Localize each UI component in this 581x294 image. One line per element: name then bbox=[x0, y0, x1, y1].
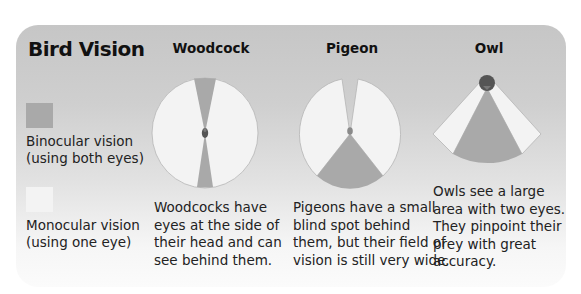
binocular-label-line2: (using both eyes) bbox=[26, 150, 144, 167]
woodcock-vision-diagram bbox=[150, 75, 262, 191]
binocular-swatch bbox=[26, 103, 53, 128]
pigeon-vision-diagram bbox=[293, 76, 407, 194]
binocular-label-line1: Binocular vision bbox=[26, 133, 144, 150]
binocular-label: Binocular vision (using both eyes) bbox=[26, 133, 144, 167]
woodcock-description: Woodcocks have eyes at the side of their… bbox=[154, 199, 282, 269]
diagram-title: Bird Vision bbox=[28, 37, 144, 61]
monocular-label-line1: Monocular vision bbox=[26, 217, 140, 234]
monocular-label-line2: (using one eye) bbox=[26, 234, 140, 251]
owl-description: Owls see a large area with two eyes. The… bbox=[433, 183, 565, 271]
owl-vision-diagram bbox=[428, 74, 548, 174]
monocular-label: Monocular vision (using one eye) bbox=[26, 217, 140, 251]
monocular-swatch bbox=[26, 187, 53, 212]
pigeon-heading: Pigeon bbox=[326, 40, 378, 56]
owl-heading: Owl bbox=[475, 40, 504, 56]
woodcock-heading: Woodcock bbox=[173, 40, 250, 56]
pigeon-description: Pigeons have a small blind spot behind t… bbox=[293, 199, 450, 269]
